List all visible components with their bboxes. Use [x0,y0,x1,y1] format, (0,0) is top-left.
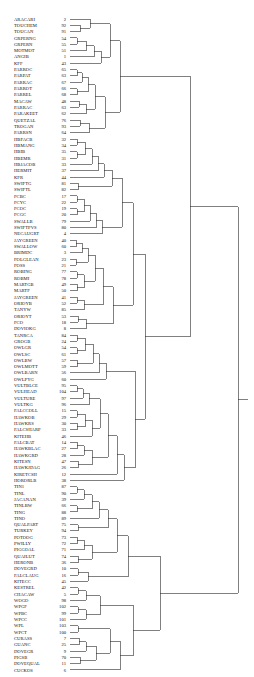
branch [90,24,110,58]
branch [84,255,95,281]
branch [70,502,99,519]
branch [70,259,76,265]
branch [120,76,190,336]
branch [105,41,120,113]
branch [78,510,108,528]
branch [70,556,78,562]
branch [70,73,82,82]
branch [70,213,96,227]
branch [70,152,77,158]
branch [77,338,85,351]
branch [70,525,78,531]
branch [84,268,103,305]
branch [89,399,100,428]
branch [80,646,96,660]
branch [70,164,104,177]
branch [70,487,77,493]
branch [70,348,77,354]
branch [70,588,78,594]
branch [77,77,88,91]
branch [78,629,110,653]
branch [70,393,89,404]
branch [70,389,83,398]
branch [70,607,78,613]
branch [70,156,98,170]
branch [70,638,79,644]
branch [70,363,106,379]
branch [113,203,133,306]
branch [70,25,80,31]
branch [70,626,78,632]
branch [78,170,112,186]
branch [106,371,135,467]
branch [70,196,77,202]
branch [70,411,77,417]
branch [70,386,77,392]
branch [70,205,90,221]
branch [70,51,101,63]
branch [70,537,77,543]
branch [70,89,77,95]
dendrogram-svg [0,0,254,677]
branch [77,414,85,427]
branch [70,360,77,366]
branch [70,297,77,303]
branch [78,545,92,559]
branch [70,423,77,429]
branch [70,46,94,57]
branch [77,199,84,212]
branch [70,149,92,165]
branch [77,275,84,288]
branch [70,240,76,246]
branch [86,85,95,109]
branch [70,183,78,189]
branch [70,139,77,145]
branch [77,495,92,509]
branch [70,104,86,113]
branch [86,596,100,615]
branch [70,38,77,44]
dendrogram-tree [0,0,254,677]
branch [88,536,128,577]
branch [70,657,80,663]
branch [100,605,133,655]
branch [70,123,89,132]
branch [89,97,105,128]
tree-branches [70,19,248,670]
branch [70,120,80,126]
branch [70,569,78,575]
branch [78,450,92,464]
branch [70,316,78,322]
branch [77,142,85,155]
branch [70,442,77,448]
branch [70,209,77,215]
dendrogram-figure: ARACARI2TOUCHEM92TOUCAN91GRPERNG54GRPERN… [0,0,254,677]
branch [70,572,88,581]
branch [70,642,86,651]
branch [70,101,79,107]
branch [70,420,92,436]
branch [70,461,78,467]
branch [92,519,117,552]
branch [70,641,120,670]
branch [70,41,86,50]
branch [160,207,238,594]
branch [70,70,77,76]
branch [70,272,77,278]
branch [70,220,102,233]
branch [70,506,77,512]
branch [70,335,77,341]
branch [70,284,77,290]
